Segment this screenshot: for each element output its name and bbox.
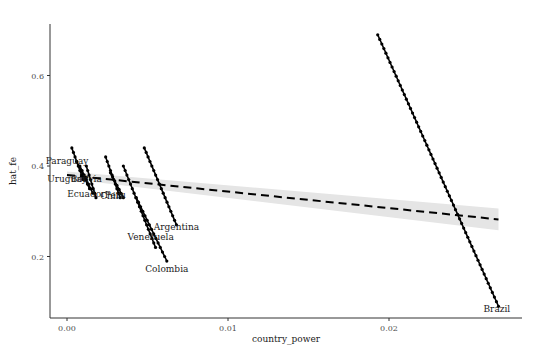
data-point bbox=[125, 173, 128, 176]
data-point bbox=[380, 42, 383, 45]
data-point bbox=[154, 246, 157, 249]
data-point bbox=[433, 162, 436, 165]
data-point bbox=[476, 259, 479, 262]
data-point bbox=[468, 240, 471, 243]
label-argentina: Argentina bbox=[153, 222, 200, 232]
data-point bbox=[72, 151, 75, 154]
data-point bbox=[145, 151, 148, 154]
data-point bbox=[156, 241, 159, 244]
data-point bbox=[124, 169, 127, 172]
regression-fit-line bbox=[67, 175, 498, 219]
data-point bbox=[415, 121, 418, 124]
data-point bbox=[448, 194, 451, 197]
data-point bbox=[148, 160, 151, 163]
data-point bbox=[489, 286, 492, 289]
data-point bbox=[163, 255, 166, 258]
y-tick-label: 0.4 bbox=[31, 162, 44, 171]
data-point bbox=[131, 187, 134, 190]
data-point bbox=[483, 272, 486, 275]
data-point bbox=[458, 217, 461, 220]
data-point bbox=[143, 214, 146, 217]
data-point bbox=[167, 205, 170, 208]
data-point bbox=[478, 263, 481, 266]
data-point bbox=[143, 146, 146, 149]
data-point bbox=[386, 56, 389, 59]
data-point bbox=[111, 175, 114, 178]
data-point bbox=[440, 176, 443, 179]
data-point bbox=[159, 246, 162, 249]
data-point bbox=[152, 241, 155, 244]
data-point bbox=[407, 102, 410, 105]
data-point bbox=[454, 208, 457, 211]
data-point bbox=[154, 173, 157, 176]
data-point bbox=[107, 164, 110, 167]
fit-line bbox=[67, 175, 498, 219]
label-venezuela: Venezuela bbox=[127, 232, 175, 242]
x-tick-label: 0.02 bbox=[380, 324, 398, 333]
ci-band bbox=[67, 171, 498, 230]
data-point bbox=[403, 93, 406, 96]
data-point bbox=[427, 148, 430, 151]
data-point bbox=[485, 277, 488, 280]
data-point bbox=[472, 249, 475, 252]
data-point bbox=[395, 75, 398, 78]
y-tick-label: 0.6 bbox=[31, 72, 44, 81]
data-point bbox=[164, 196, 167, 199]
data-point bbox=[446, 190, 449, 193]
data-point bbox=[141, 210, 144, 213]
axes bbox=[50, 24, 522, 318]
data-point bbox=[405, 98, 408, 101]
label-colombia: Colombia bbox=[145, 264, 189, 274]
data-point bbox=[156, 178, 159, 181]
data-point bbox=[145, 223, 148, 226]
series-brazil bbox=[376, 33, 500, 308]
data-point bbox=[431, 157, 434, 160]
data-point bbox=[481, 268, 484, 271]
data-point bbox=[464, 231, 467, 234]
data-point bbox=[86, 169, 89, 172]
data-point bbox=[146, 219, 149, 222]
data-point bbox=[376, 33, 379, 36]
data-point bbox=[165, 259, 168, 262]
data-point bbox=[460, 222, 463, 225]
data-point bbox=[384, 52, 387, 55]
data-point bbox=[435, 167, 438, 170]
x-tick-label: 0.01 bbox=[219, 324, 237, 333]
data-point bbox=[161, 250, 164, 253]
data-point bbox=[452, 203, 455, 206]
data-point bbox=[399, 84, 402, 87]
data-point bbox=[393, 70, 396, 73]
country-series bbox=[70, 33, 500, 308]
data-point bbox=[388, 61, 391, 64]
chart: ParaguayUruguayBoliviaEcuadorChilePeruVe… bbox=[0, 0, 543, 359]
data-point bbox=[70, 146, 73, 149]
label-peru: Peru bbox=[105, 190, 126, 200]
data-point bbox=[397, 79, 400, 82]
data-point bbox=[411, 111, 414, 114]
data-point bbox=[438, 171, 441, 174]
data-point bbox=[444, 185, 447, 188]
data-point bbox=[129, 183, 132, 186]
data-point bbox=[135, 196, 138, 199]
data-point bbox=[146, 155, 149, 158]
data-point bbox=[139, 205, 142, 208]
data-point bbox=[382, 47, 385, 50]
data-point bbox=[165, 201, 168, 204]
data-point bbox=[162, 192, 165, 195]
data-point bbox=[421, 134, 424, 137]
data-point bbox=[493, 295, 496, 298]
data-point bbox=[423, 139, 426, 142]
data-point bbox=[127, 178, 130, 181]
data-point bbox=[147, 228, 150, 231]
data-point bbox=[137, 201, 140, 204]
x-axis-title: country_power bbox=[252, 334, 321, 345]
data-point bbox=[80, 169, 83, 172]
data-point bbox=[150, 164, 153, 167]
data-point bbox=[487, 282, 490, 285]
label-brazil: Brazil bbox=[483, 304, 510, 314]
data-point bbox=[104, 155, 107, 158]
data-point bbox=[425, 144, 428, 147]
x-tick-label: 0.00 bbox=[58, 324, 76, 333]
data-point bbox=[462, 226, 465, 229]
data-point bbox=[450, 199, 453, 202]
